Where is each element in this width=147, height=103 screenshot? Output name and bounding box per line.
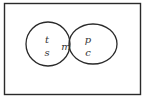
label-s: s (44, 47, 49, 58)
label-m: m (61, 41, 70, 52)
label-p: p (85, 34, 92, 45)
label-c: c (85, 47, 91, 58)
venn-diagram: t s m p c (0, 0, 147, 103)
universe-rectangle (5, 4, 141, 95)
